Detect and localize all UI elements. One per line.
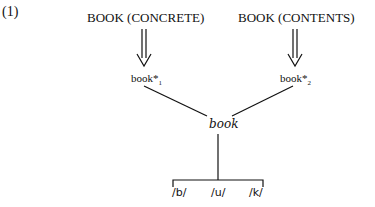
phoneme-b: /b/: [172, 186, 186, 199]
double-arrow-icon: [137, 29, 151, 66]
diagram-lines: [0, 0, 375, 207]
double-arrow-icon: [288, 29, 302, 66]
lexeme-book-2: book*2: [280, 72, 311, 87]
phoneme-k: /k/: [249, 186, 263, 199]
lexeme-book-1: book*1: [131, 72, 162, 87]
lexeme-index: 1: [159, 79, 163, 87]
lexeme-label: book*: [131, 72, 159, 84]
lexeme-index: 2: [308, 79, 312, 87]
phoneme-u: /u/: [211, 186, 225, 199]
lexeme-label: book*: [280, 72, 308, 84]
word-book: book: [209, 117, 238, 131]
